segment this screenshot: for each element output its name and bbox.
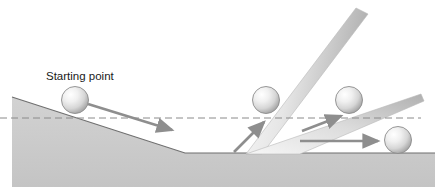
- physics-diagram-scene: Starting point: [0, 0, 435, 187]
- ball-on-shallow-ramp: [336, 87, 363, 114]
- ball-starting-point: [62, 87, 89, 114]
- starting-point-label: Starting point: [46, 70, 115, 82]
- diagram-canvas: Starting point: [0, 0, 435, 187]
- ball-on-ground: [385, 127, 412, 154]
- ball-after-steep-bounce: [253, 87, 280, 114]
